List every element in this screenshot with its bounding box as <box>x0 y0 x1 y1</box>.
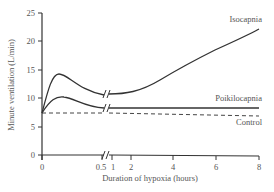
x-tick-label: 6 <box>214 162 218 172</box>
x-tick-labels: 0 0.5 1 2 4 6 8 <box>40 162 261 172</box>
x-tick-label: 0 <box>40 162 44 172</box>
y-tick-label: 0 <box>31 150 35 160</box>
x-tick-label: 0.5 <box>96 162 107 172</box>
y-tick-label: 10 <box>27 93 36 103</box>
series-label-control: Control <box>236 117 263 127</box>
y-tick-label: 5 <box>31 122 35 132</box>
y-tick-label: 20 <box>27 36 36 46</box>
series-label-poikilocapnia: Poikilocapnia <box>215 93 262 103</box>
x-axis-break-icon <box>102 151 109 159</box>
series-break-icon <box>103 90 110 98</box>
x-tick-label: 4 <box>171 162 176 172</box>
y-axis-title: Minute ventilation (L/min) <box>6 39 16 131</box>
series-label-isocapnia: Isocapnia <box>229 14 262 24</box>
series-isocapnia-line-after-break <box>109 29 259 94</box>
x-tick-label: 1 <box>111 162 115 172</box>
chart: 25 20 15 10 5 0 Minute ventilation (L/mi… <box>0 0 274 192</box>
x-tick-label: 2 <box>129 162 133 172</box>
x-tick-label: 8 <box>257 162 261 172</box>
series-break-icon <box>103 104 110 112</box>
series-control-line <box>42 113 259 116</box>
y-tick-label: 15 <box>27 65 36 75</box>
y-tick-label: 25 <box>27 8 36 18</box>
series-poikilocapnia-line <box>42 97 104 113</box>
x-axis-title: Duration of hypoxia (hours) <box>102 173 198 183</box>
y-tick-labels: 25 20 15 10 5 0 <box>27 8 36 160</box>
